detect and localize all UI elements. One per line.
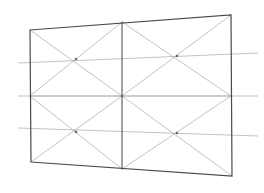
node-bottom-left — [75, 131, 78, 134]
node-top-left — [75, 58, 78, 61]
diagonal-group — [30, 15, 232, 176]
guide-line-upper — [18, 53, 258, 63]
quadrant-bottom-right-diagonal-a — [122, 96, 232, 176]
quadrant-top-left-diagonal-a — [30, 30, 122, 96]
quadrant-top-right-diagonal-a — [122, 22, 231, 96]
node-center — [121, 95, 124, 98]
node-top-right — [176, 55, 179, 58]
diagram-canvas — [0, 0, 264, 193]
outer-frame — [30, 15, 232, 176]
guide-line-group — [18, 53, 258, 136]
node-group — [75, 55, 179, 135]
node-bottom-right — [176, 132, 179, 135]
perspective-grid-figure — [0, 0, 264, 193]
guide-line-lower — [18, 128, 258, 136]
